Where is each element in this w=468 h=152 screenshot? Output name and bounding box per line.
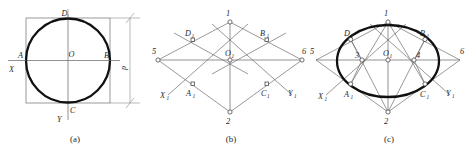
axis-line-y1 (212, 24, 292, 95)
label-midpoint-c1-sub: 1 (267, 93, 270, 99)
label-midpoint-b1-sub: 1 (267, 33, 270, 39)
centre-node-1 (386, 20, 390, 24)
label-vertex-6: 6 (302, 47, 307, 56)
label-vertex-6: 6 (460, 47, 465, 56)
construction-ray-upper-right (212, 33, 286, 74)
label-point-d: D (61, 9, 68, 18)
tangency-node-c1 (423, 82, 427, 86)
caption-panel-c: (c) (369, 134, 409, 144)
label-axis-y1-sub: 1 (452, 93, 455, 99)
label-midpoint-a1: A (185, 89, 192, 98)
panel-a-true-circle: D C A B O X Y d (0, 0, 156, 152)
label-tangency-d1-sub: 1 (351, 33, 354, 39)
label-axis-x: X (8, 65, 15, 74)
label-tangency-a1-sub: 1 (351, 94, 354, 100)
caption-panel-a: (a) (55, 134, 95, 144)
label-midpoint-d1-sub: 1 (192, 33, 195, 39)
centre-node-3 (360, 58, 364, 62)
vertex-node-1 (228, 20, 232, 24)
label-tangency-b1: B (420, 29, 425, 38)
panel-c-completed-ellipse: 1 2 5 6 3 4 D 1 B 1 A 1 C 1 O 1 X 1 Y 1 (310, 0, 468, 152)
label-tangency-c1: C (420, 90, 426, 99)
tangency-node-a1 (349, 82, 353, 86)
label-vertex-1: 1 (384, 9, 388, 18)
label-centre-4: 4 (416, 51, 420, 60)
label-axis-x1: X (317, 92, 324, 101)
figure-root: D C A B O X Y d (0, 0, 468, 152)
label-vertex-5: 5 (310, 47, 314, 56)
label-tangency-c1-sub: 1 (427, 94, 430, 100)
label-midpoint-a1-sub: 1 (193, 93, 196, 99)
centre-node-2 (386, 110, 390, 114)
label-dimension-d: d (120, 66, 129, 71)
label-axis-x1-sub: 1 (167, 95, 170, 101)
label-tangency-b1-sub: 1 (427, 33, 430, 39)
label-point-a: A (17, 51, 24, 60)
label-axis-y1-sub: 1 (294, 93, 297, 99)
label-axis-x1-sub: 1 (325, 96, 328, 102)
label-centre-o1: O (383, 49, 389, 58)
construction-ray-upper-left (174, 33, 248, 74)
label-vertex-2: 2 (226, 117, 230, 126)
label-centre-o1: O (225, 49, 231, 58)
label-midpoint-b1: B (260, 29, 265, 38)
label-axis-y: Y (57, 115, 63, 124)
midpoint-node-a1 (191, 82, 194, 85)
vertex-node-2 (228, 110, 232, 114)
panel-b-isometric-rhombus: 1 2 5 6 D 1 B 1 A 1 C 1 O 1 X 1 Y 1 (152, 0, 310, 152)
axis-line-x1 (168, 24, 248, 95)
label-centre-o1-sub: 1 (390, 53, 393, 59)
label-tangency-a1: A (343, 90, 350, 99)
label-vertex-5: 5 (152, 47, 156, 56)
caption-panel-b: (b) (211, 134, 251, 144)
vertex-node-6 (300, 58, 304, 62)
label-centre-o: O (69, 50, 75, 59)
label-centre-3: 3 (354, 51, 359, 60)
label-tangency-d1: D (343, 29, 350, 38)
label-vertex-2: 2 (384, 117, 388, 126)
label-midpoint-d1: D (184, 29, 191, 38)
label-vertex-1: 1 (226, 9, 230, 18)
vertex-node-5 (156, 58, 160, 62)
radius-line-4-to-c1 (414, 60, 425, 84)
label-point-b: B (104, 51, 109, 60)
label-point-c: C (70, 106, 76, 115)
midpoint-node-c1 (265, 82, 268, 85)
label-axis-x1: X (159, 91, 166, 100)
label-centre-o1-sub: 1 (232, 53, 235, 59)
